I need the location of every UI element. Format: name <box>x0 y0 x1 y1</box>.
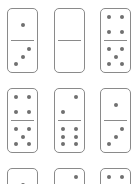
pip-dot-icon <box>107 175 111 179</box>
domino-tile[interactable] <box>7 168 38 184</box>
domino-tile[interactable] <box>54 88 85 153</box>
pip-dot-icon <box>74 127 78 131</box>
pip-dot-icon <box>61 135 65 139</box>
domino-tile[interactable] <box>54 8 85 73</box>
pip-dot-icon <box>14 62 18 66</box>
pip-dot-icon <box>14 95 18 99</box>
pip-dot-icon <box>107 47 111 51</box>
pip-dot-icon <box>120 62 124 66</box>
pip-dot-icon <box>120 175 124 179</box>
pip-dot-icon <box>74 175 78 179</box>
domino-tile[interactable] <box>100 8 131 73</box>
domino-half-top <box>101 89 130 120</box>
pip-dot-icon <box>21 183 25 185</box>
domino-half-bottom <box>55 41 84 72</box>
pip-dot-icon <box>107 15 111 19</box>
pip-dot-icon <box>114 135 118 139</box>
domino-tile[interactable] <box>100 168 131 184</box>
domino-half-top <box>101 169 130 184</box>
pip-dot-icon <box>74 142 78 146</box>
domino-half-bottom <box>101 121 130 152</box>
domino-half-bottom <box>55 121 84 152</box>
pip-dot-icon <box>27 127 31 131</box>
pip-dot-icon <box>74 135 78 139</box>
domino-half-top <box>8 89 37 120</box>
domino-half-bottom <box>8 41 37 72</box>
pip-dot-icon <box>14 127 18 131</box>
pip-dot-icon <box>107 62 111 66</box>
domino-tile[interactable] <box>7 88 38 153</box>
pip-dot-icon <box>120 30 124 34</box>
pip-dot-icon <box>27 95 31 99</box>
domino-tile[interactable] <box>54 168 85 184</box>
pip-dot-icon <box>27 142 31 146</box>
domino-half-bottom <box>8 121 37 152</box>
pip-dot-icon <box>27 47 31 51</box>
pip-dot-icon <box>114 103 118 107</box>
pip-dot-icon <box>107 30 111 34</box>
pip-dot-icon <box>114 55 118 59</box>
pip-dot-icon <box>74 95 78 99</box>
pip-dot-icon <box>21 23 25 27</box>
pip-dot-icon <box>120 15 124 19</box>
pip-dot-icon <box>61 127 65 131</box>
domino-half-top <box>101 9 130 40</box>
pip-dot-icon <box>14 110 18 114</box>
pip-dot-icon <box>61 142 65 146</box>
domino-half-top <box>55 169 84 184</box>
domino-half-bottom <box>101 41 130 72</box>
pip-dot-icon <box>14 142 18 146</box>
pip-dot-icon <box>120 127 124 131</box>
pip-dot-icon <box>107 142 111 146</box>
domino-half-top <box>8 169 37 184</box>
domino-tile[interactable] <box>100 88 131 153</box>
domino-half-top <box>8 9 37 40</box>
domino-half-top <box>55 9 84 40</box>
pip-dot-icon <box>120 47 124 51</box>
pip-dot-icon <box>21 135 25 139</box>
pip-dot-icon <box>61 110 65 114</box>
domino-half-top <box>55 89 84 120</box>
pip-dot-icon <box>21 55 25 59</box>
domino-tile[interactable] <box>7 8 38 73</box>
pip-dot-icon <box>27 110 31 114</box>
